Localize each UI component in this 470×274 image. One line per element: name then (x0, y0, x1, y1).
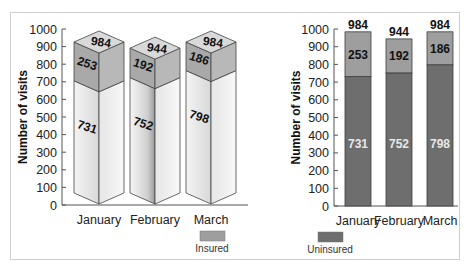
y-tick-label: 600 (36, 93, 57, 107)
uninsured-value-label: 731 (348, 137, 368, 151)
y-tick-label: 700 (308, 76, 329, 90)
y-tick-label: 400 (36, 128, 57, 142)
insured-value-label: 186 (430, 42, 450, 56)
x-category-label: February (374, 214, 425, 228)
y-tick-label: 900 (36, 40, 57, 54)
uninsured-segment (427, 65, 453, 206)
uninsured-value-label: 798 (430, 137, 450, 151)
bar-3d-january: 984253731January (74, 31, 124, 227)
y-tick-label: 700 (36, 75, 57, 89)
y-tick-label: 300 (36, 146, 57, 160)
y-tick-label: 200 (36, 163, 57, 177)
y-tick-label: 200 (308, 164, 329, 178)
y-tick-label: 0 (50, 199, 57, 213)
bar-february: 944192752February (374, 25, 425, 228)
right-stacked-chart: 01002003004005006007008009001000Number o… (289, 18, 458, 228)
legend-swatch (200, 231, 225, 241)
y-tick-label: 600 (308, 93, 329, 107)
y-axis-title: Number of visits (289, 70, 303, 164)
insured-value-label: 192 (389, 49, 409, 63)
legend-item-insured: Insured (195, 231, 228, 254)
y-tick-label: 500 (36, 111, 57, 125)
y-axis-title: Number of visits (16, 70, 30, 164)
left-3d-stacked-chart: 01002003004005006007008009001000Number o… (16, 23, 248, 228)
chart-canvas: 01002003004005006007008009001000Number o… (0, 0, 470, 274)
total-label: 984 (202, 34, 224, 51)
bar-march: 984186798March (423, 18, 458, 228)
legend-label: Uninsured (307, 244, 353, 255)
total-label: 984 (430, 18, 450, 32)
y-tick-label: 0 (322, 200, 329, 214)
y-tick-label: 400 (308, 129, 329, 143)
x-category-label: February (130, 213, 181, 227)
total-label: 984 (90, 34, 112, 51)
y-tick-label: 800 (36, 58, 57, 72)
bar-3d-february: 944192752February (130, 37, 181, 227)
insured-value-label: 253 (348, 48, 368, 62)
y-tick-label: 500 (308, 111, 329, 125)
y-tick-label: 800 (308, 58, 329, 72)
x-category-label: January (77, 213, 122, 227)
bar-january: 984253731January (336, 18, 381, 228)
total-label: 944 (389, 25, 409, 39)
y-tick-label: 100 (36, 181, 57, 195)
legend-item-uninsured: Uninsured (307, 232, 353, 255)
x-category-label: March (194, 213, 229, 227)
total-label: 944 (146, 40, 168, 57)
y-tick-label: 100 (308, 182, 329, 196)
y-tick-label: 900 (308, 40, 329, 54)
legend: InsuredUninsured (195, 231, 352, 255)
bar-3d-march: 984186798March (186, 31, 236, 227)
x-category-label: March (423, 214, 458, 228)
y-tick-label: 300 (308, 146, 329, 160)
legend-swatch (318, 232, 343, 242)
legend-label: Insured (195, 243, 228, 254)
y-tick-label: 1000 (29, 23, 57, 37)
y-tick-label: 1000 (301, 23, 329, 37)
total-label: 984 (348, 18, 368, 32)
uninsured-value-label: 752 (389, 137, 409, 151)
